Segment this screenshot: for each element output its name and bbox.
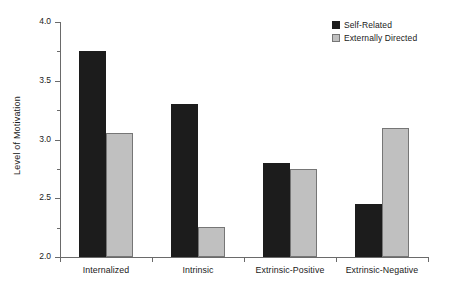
x-tick-4	[428, 257, 429, 262]
y-tick-3-5: 3.5	[55, 81, 60, 82]
bar-externally-directed-extrinsic-positive[interactable]	[290, 169, 317, 257]
bar-externally-directed-intrinsic[interactable]	[198, 227, 225, 257]
x-tick-2	[244, 257, 245, 262]
x-tick-0	[60, 257, 61, 262]
y-tick-label-3-0: 3.0	[39, 134, 51, 145]
y-tick-3-0: 3.0	[55, 140, 60, 141]
x-tick-1	[152, 257, 153, 262]
bar-externally-directed-extrinsic-negative[interactable]	[382, 128, 409, 257]
y-tick-label-3-5: 3.5	[39, 75, 51, 86]
y-tick-2-5: 2.5	[55, 198, 60, 199]
bar-self-related-extrinsic-positive[interactable]	[263, 163, 290, 257]
y-tick-label-2-0: 2.0	[39, 251, 51, 262]
y-tick-minor-2-75	[57, 169, 60, 170]
x-tick-3	[336, 257, 337, 262]
plot-area: 2.0 2.5 3.0 3.5 4.0 Internalized	[60, 22, 429, 257]
y-tick-label-4-0: 4.0	[39, 16, 51, 27]
y-axis-title: Level of Motivation	[6, 18, 28, 253]
bar-self-related-extrinsic-negative[interactable]	[355, 204, 382, 257]
y-tick-minor-3-75	[57, 51, 60, 52]
y-axis-line	[60, 22, 61, 258]
bar-self-related-internalized[interactable]	[79, 51, 106, 257]
y-tick-minor-2-25	[57, 228, 60, 229]
y-tick-4-0: 4.0	[55, 22, 60, 23]
y-tick-minor-3-25	[57, 110, 60, 111]
y-tick-label-2-5: 2.5	[39, 192, 51, 203]
x-axis-label-extrinsic-negative: Extrinsic-Negative	[317, 265, 447, 276]
bar-self-related-intrinsic[interactable]	[171, 104, 198, 257]
bar-chart-figure: Level of Motivation Self-Related Externa…	[0, 0, 453, 297]
bar-externally-directed-internalized[interactable]	[106, 133, 133, 257]
